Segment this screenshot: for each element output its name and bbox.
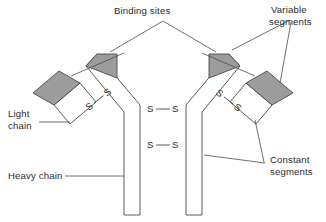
binding-sites-label: Binding sites <box>114 5 170 16</box>
heavy-chain-right-outline <box>186 54 240 215</box>
bond-line <box>94 96 103 103</box>
light-chain-label-line2: chain <box>8 120 32 131</box>
variable-segments-label-line2: segments <box>269 16 312 27</box>
variable-segment-heavy-right <box>209 54 240 78</box>
disulfide-bond-center-upper: S S <box>147 103 178 114</box>
constant-segments-leader-heavy-right <box>204 155 265 163</box>
sulfur-label: S <box>172 139 178 150</box>
sulfur-label: S <box>172 103 178 114</box>
variable-segments-label-line1: Variable <box>271 4 307 15</box>
antibody-diagram: S S S S S S S S <box>0 0 326 222</box>
sulfur-label: S <box>147 103 153 114</box>
variable-segments-leader-light-right <box>280 22 291 83</box>
constant-segments-leader-light-right <box>255 120 264 162</box>
constant-segments-label-line2: segments <box>270 166 313 177</box>
heavy-chain-label: Heavy chain <box>8 170 62 181</box>
disulfide-bond-center-lower: S S <box>147 139 178 150</box>
binding-sites-leader <box>110 21 216 52</box>
sulfur-label: S <box>147 139 153 150</box>
variable-segment-heavy-left <box>86 54 117 78</box>
constant-segments-label-line1: Constant <box>270 154 310 165</box>
antibody-structure-svg: S S S S S S S S <box>0 0 326 222</box>
heavy-chain-left-outline <box>86 54 140 215</box>
light-chain-label-line1: Light <box>8 108 30 119</box>
